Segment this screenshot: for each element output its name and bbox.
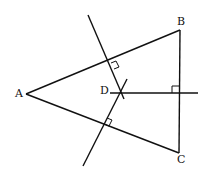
- segment-BC: [179, 30, 180, 153]
- geometry-diagram: A B C D: [0, 0, 206, 173]
- right-angle-mark-BC: [172, 86, 179, 93]
- right-angle-mark-AB: [111, 61, 119, 69]
- label-A: A: [14, 87, 24, 100]
- label-B: B: [177, 15, 185, 28]
- segment-CA: [26, 94, 179, 153]
- label-C: C: [177, 153, 185, 166]
- label-D: D: [100, 84, 109, 97]
